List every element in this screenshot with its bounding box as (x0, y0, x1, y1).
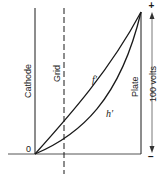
curve-label-f-prime: f′ (92, 74, 98, 85)
curve-label-h-prime: h′ (106, 108, 114, 119)
cathode-label: Cathode (23, 64, 33, 98)
origin-label: 0 (26, 144, 31, 154)
curve-h-prime (35, 12, 141, 154)
grid-label: Grid (52, 65, 62, 82)
voltage-label: 100 volts (148, 65, 158, 102)
minus-sign: − (148, 151, 154, 162)
arrow-up-icon (150, 12, 155, 19)
plus-sign: + (149, 0, 155, 11)
vacuum-tube-potential-diagram: Cathode Grid Plate 100 volts f′ h′ 0 + − (0, 0, 163, 176)
curve-f-prime (35, 12, 141, 154)
plate-label: Plate (130, 76, 140, 97)
